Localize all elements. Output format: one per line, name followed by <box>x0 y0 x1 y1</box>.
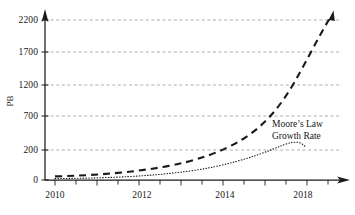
series-data-growth-arrowhead <box>327 11 335 23</box>
x-tick-label-2010: 2010 <box>35 190 75 200</box>
x-axis <box>45 177 350 184</box>
chart-plot-area <box>0 0 355 215</box>
y-axis-title: PB <box>5 89 15 113</box>
y-tick-label-2200: 2200 <box>4 15 38 25</box>
series-moores-law-curve <box>55 142 305 178</box>
x-tick-label-2014: 2014 <box>205 190 245 200</box>
series-data-growth-curve <box>55 20 329 177</box>
x-tick-marks <box>55 180 328 186</box>
moores-law-annotation: Moore’s Law Growth Rate <box>272 119 348 142</box>
x-tick-label-2018: 2018 <box>283 190 323 200</box>
y-tick-label-1700: 1700 <box>4 47 38 57</box>
x-tick-label-2012: 2012 <box>122 190 162 200</box>
y-tick-label-0: 0 <box>4 175 38 185</box>
moores-law-annotation-line2: Growth Rate <box>272 131 348 143</box>
y-tick-label-200: 200 <box>4 145 38 155</box>
moores-law-annotation-line1: Moore’s Law <box>272 119 348 131</box>
y-tick-label-700: 700 <box>4 111 38 121</box>
y-tick-label-1200: 1200 <box>4 80 38 90</box>
y-axis <box>42 9 49 180</box>
chart-container: PB 2200 1700 1200 700 200 0 2010 2012 20… <box>0 0 355 215</box>
